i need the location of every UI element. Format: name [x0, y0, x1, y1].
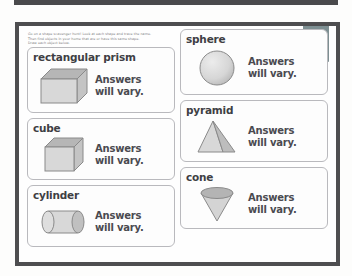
shape-illustration-slot — [33, 63, 95, 108]
cube-icon — [43, 136, 85, 174]
shape-illustration-slot — [186, 116, 248, 157]
cone-icon — [197, 184, 237, 224]
shape-label: cone — [186, 171, 322, 183]
answer-text: Answers will vary. — [95, 210, 169, 233]
shape-card-body: Answers will vary. — [186, 45, 322, 90]
answer-line-2: will vary. — [95, 86, 169, 98]
shape-card-pyramid[interactable]: pyramid Answers will — [180, 100, 328, 162]
shape-label: sphere — [186, 33, 322, 45]
answer-line-2: will vary. — [248, 68, 322, 80]
worksheet-page: Go on a shape scavenger hunt! Look at ea… — [15, 22, 340, 266]
answer-line-1: Answers — [95, 143, 169, 155]
worksheet-page-inner: Go on a shape scavenger hunt! Look at ea… — [19, 26, 336, 262]
answer-text: Answers will vary. — [95, 143, 169, 166]
answer-text: Answers will vary. — [248, 56, 322, 79]
shape-card-cylinder[interactable]: cylinder Answer — [27, 185, 175, 247]
shape-card-body: Answers will vary. — [186, 183, 322, 224]
shape-illustration-slot — [33, 134, 95, 175]
cards-column-left: rectangular prism — [27, 47, 175, 252]
shape-card-body: Answers will vary. — [33, 63, 169, 108]
shape-label: cube — [33, 122, 169, 134]
shape-illustration-slot — [186, 45, 248, 90]
answer-line-2: will vary. — [95, 222, 169, 234]
pyramid-icon — [195, 118, 239, 156]
cylinder-icon — [41, 206, 87, 238]
shape-illustration-slot — [186, 183, 248, 224]
answer-line-2: will vary. — [248, 137, 322, 149]
shape-label: cylinder — [33, 189, 169, 201]
answer-line-2: will vary. — [95, 155, 169, 167]
answer-line-1: Answers — [248, 192, 322, 204]
answer-text: Answers will vary. — [248, 192, 322, 215]
answer-text: Answers will vary. — [95, 74, 169, 97]
answer-line-1: Answers — [95, 74, 169, 86]
sphere-icon — [197, 48, 237, 88]
shape-label: pyramid — [186, 104, 322, 116]
answer-line-1: Answers — [248, 56, 322, 68]
shape-card-sphere[interactable]: sphere — [180, 29, 328, 95]
shape-card-body: Answers will vary. — [33, 134, 169, 175]
shape-label: rectangular prism — [33, 51, 169, 63]
shape-card-body: Answers will vary. — [186, 116, 322, 157]
cards-grid: rectangular prism — [19, 26, 336, 262]
answer-line-1: Answers — [95, 210, 169, 222]
shape-card-body: Answers will vary. — [33, 201, 169, 242]
scan-top-band — [14, 0, 338, 5]
shape-card-cone[interactable]: cone Answers will va — [180, 167, 328, 229]
shape-card-rectangular-prism[interactable]: rectangular prism — [27, 47, 175, 113]
rectangular-prism-icon — [39, 67, 89, 105]
cards-column-right: sphere — [180, 29, 328, 234]
answer-line-1: Answers — [248, 125, 322, 137]
answer-text: Answers will vary. — [248, 125, 322, 148]
shape-card-cube[interactable]: cube Answers — [27, 118, 175, 180]
shape-illustration-slot — [33, 201, 95, 242]
answer-line-2: will vary. — [248, 204, 322, 216]
